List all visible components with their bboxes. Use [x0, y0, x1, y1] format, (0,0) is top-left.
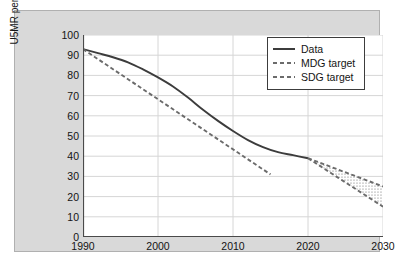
legend-item-data: Data: [273, 42, 359, 56]
chart-panel: U5MR per 1,000 Live Births 0102030405060…: [14, 10, 380, 252]
y-tick-label: 80: [41, 70, 79, 80]
legend-item-sdg: SDG target: [273, 70, 359, 84]
y-tick-label: 50: [41, 131, 79, 141]
y-tick-label: 40: [41, 151, 79, 161]
y-tick-label: 70: [41, 91, 79, 101]
x-tick-label: 2030: [358, 241, 399, 252]
legend-label-sdg: SDG target: [301, 72, 354, 83]
legend-item-mdg: MDG target: [273, 56, 359, 70]
x-tick-label: 2020: [283, 241, 333, 252]
legend-solid-line-icon: [273, 44, 295, 54]
x-tick-label: 2000: [133, 241, 183, 252]
y-tick-label: 100: [41, 30, 79, 40]
y-tick-label: 60: [41, 111, 79, 121]
y-tick-label: 10: [41, 212, 79, 222]
legend-dashed-line-icon: [273, 58, 295, 68]
legend-dashed-line-icon-2: [273, 72, 295, 82]
y-tick-label: 20: [41, 192, 79, 202]
y-axis-label: U5MR per 1,000 Live Births: [9, 0, 20, 63]
legend-label-mdg: MDG target: [301, 58, 355, 69]
y-tick-label: 90: [41, 50, 79, 60]
y-tick-label: 30: [41, 171, 79, 181]
legend-label-data: Data: [301, 44, 323, 55]
chart-legend: Data MDG target SDG target: [267, 37, 365, 90]
x-tick-label: 2010: [208, 241, 258, 252]
x-tick-label: 1990: [58, 241, 108, 252]
